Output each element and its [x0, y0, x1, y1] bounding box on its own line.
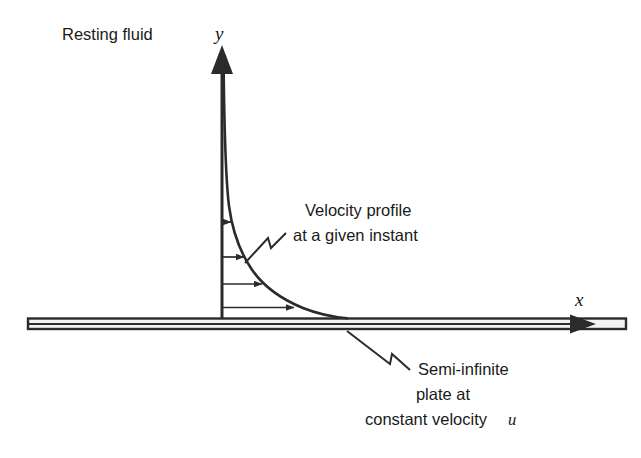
x-axis-label: x: [574, 289, 584, 310]
velocity-profile-label-line1: Velocity profile: [305, 201, 411, 219]
plate-label-velocity-symbol: u: [508, 410, 516, 429]
profile-path: [224, 58, 348, 318]
resting-fluid-label: Resting fluid: [62, 25, 153, 43]
y-axis: [211, 45, 233, 318]
y-axis-label: y: [213, 23, 224, 44]
velocity-profile-leader-path: [245, 233, 286, 263]
plate-label-line2: plate at: [416, 385, 471, 403]
velocity-profile-curve: [224, 58, 348, 318]
plate-leader-path: [347, 331, 410, 370]
plate-label-line1: Semi-infinite: [418, 360, 509, 378]
velocity-profile-label-line2: at a given instant: [293, 226, 418, 244]
plate-label-line3: constant velocity u: [365, 410, 516, 429]
diagram-canvas: Resting fluid y x Velocity profile at a …: [0, 0, 641, 458]
velocity-profile-leader: [245, 233, 286, 263]
plate-leader: [347, 331, 410, 370]
y-axis-arrowhead: [211, 45, 233, 74]
figure-root: Resting fluid y x Velocity profile at a …: [0, 0, 641, 458]
plate-label-line3-text: constant velocity: [365, 410, 488, 428]
